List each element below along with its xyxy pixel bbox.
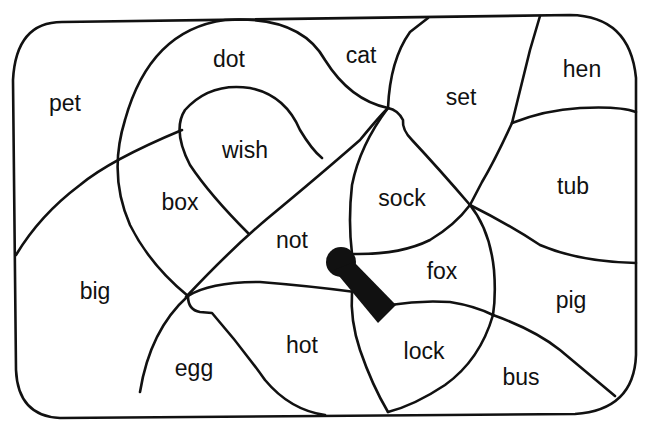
word-not[interactable]: not [276, 229, 308, 252]
outer-loop-line [118, 20, 388, 393]
word-box[interactable]: box [161, 191, 198, 214]
hen-tub-divider [512, 108, 636, 124]
set-hen-divider [512, 16, 540, 123]
pet-box-divider [16, 130, 182, 255]
fox-pig-divider [470, 205, 495, 315]
word-dot[interactable]: dot [213, 48, 245, 71]
outer-border [13, 15, 636, 418]
word-tub[interactable]: tub [557, 175, 589, 198]
word-hen[interactable]: hen [563, 58, 601, 81]
word-fox[interactable]: fox [427, 260, 458, 283]
word-hot[interactable]: hot [286, 334, 318, 357]
cat-set-divider [388, 18, 428, 108]
set-tub-divider [470, 123, 512, 205]
word-pig[interactable]: pig [556, 289, 587, 312]
not-hot-divider [188, 282, 355, 296]
word-cat[interactable]: cat [346, 44, 377, 67]
word-lock[interactable]: lock [404, 340, 445, 363]
word-set[interactable]: set [446, 86, 477, 109]
word-sock[interactable]: sock [378, 187, 425, 210]
keyhole-icon [326, 247, 396, 323]
fox-lock-divider [390, 301, 493, 315]
word-bus[interactable]: bus [502, 366, 539, 389]
word-big[interactable]: big [80, 280, 111, 303]
word-pet[interactable]: pet [49, 92, 81, 115]
word-egg[interactable]: egg [175, 357, 213, 380]
puzzle-lines [0, 0, 649, 432]
sock-fox-divider [352, 205, 470, 254]
lock-bus-divider [388, 315, 493, 412]
word-wish[interactable]: wish [222, 139, 268, 162]
tub-pig-divider [470, 205, 636, 263]
